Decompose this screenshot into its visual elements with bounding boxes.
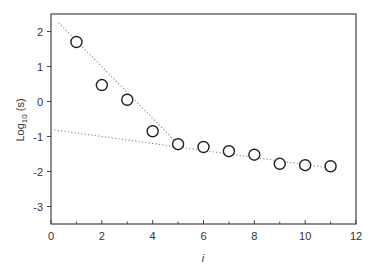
y-axis-title-rest: (s)	[14, 98, 26, 114]
data-point	[173, 139, 184, 150]
data-point	[223, 146, 234, 157]
data-point	[249, 149, 260, 160]
y-tick-label: 2	[37, 26, 43, 38]
data-point	[147, 126, 158, 137]
y-tick-label: -1	[33, 131, 43, 143]
fit-line-fit-shallow	[51, 130, 331, 169]
data-point	[274, 158, 285, 169]
x-axis: 024681012	[48, 220, 362, 242]
data-markers	[71, 37, 336, 172]
y-axis-title: Log10 (s)	[14, 98, 29, 141]
data-point	[198, 142, 209, 153]
x-tick-label: 10	[299, 230, 311, 242]
data-point	[325, 161, 336, 172]
y-tick-label: 0	[37, 96, 43, 108]
x-axis-title: i	[202, 252, 205, 264]
plot-frame	[51, 14, 356, 224]
data-point	[300, 160, 311, 171]
x-tick-label: 6	[200, 230, 206, 242]
fit-lines	[51, 23, 331, 168]
y-tick-label: 1	[37, 61, 43, 73]
chart: 024681012 210-1-2-3 i Log10 (s)	[0, 0, 374, 272]
y-tick-label: -3	[33, 201, 43, 213]
y-axis: 210-1-2-3	[33, 26, 51, 213]
x-tick-label: 0	[48, 230, 54, 242]
plot-border	[51, 14, 356, 224]
y-axis-title-main: Log	[14, 123, 26, 141]
x-tick-label: 2	[99, 230, 105, 242]
data-point	[96, 80, 107, 91]
x-tick-label: 8	[251, 230, 257, 242]
data-point	[71, 37, 82, 48]
y-tick-label: -2	[33, 166, 43, 178]
data-point	[122, 94, 133, 105]
x-tick-label: 12	[350, 230, 362, 242]
x-tick-label: 4	[150, 230, 156, 242]
